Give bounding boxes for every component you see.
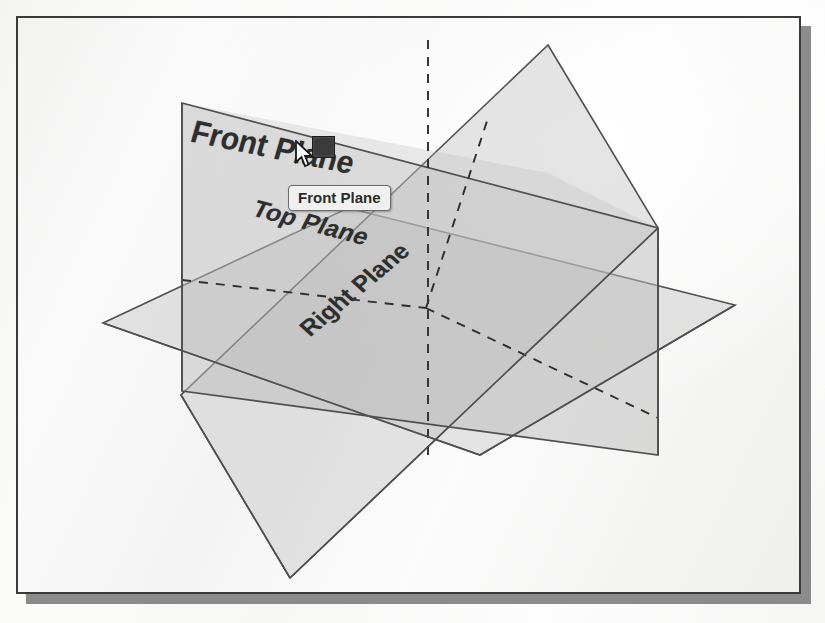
front-plane-tooltip: Front Plane <box>288 185 391 211</box>
reference-planes-drawing <box>18 18 799 592</box>
arrow-pointer-icon <box>294 140 316 170</box>
graphics-viewport[interactable]: Front Plane Top Plane Right Plane Front … <box>16 16 801 594</box>
